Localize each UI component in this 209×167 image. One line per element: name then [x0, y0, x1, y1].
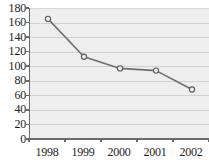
y-tick-mark-160: [25, 22, 29, 24]
y-tick-label-120: 120: [0, 45, 26, 57]
data-point-1999: [81, 54, 86, 59]
y-tick-label-140: 140: [0, 31, 26, 43]
x-tick-mark-0: [28, 138, 30, 142]
x-tick-mark-1: [64, 138, 66, 142]
x-tick-label-2001: 2001: [137, 146, 173, 159]
y-tick-label-160: 160: [0, 16, 26, 28]
data-point-2002: [189, 87, 194, 92]
y-tick-mark-180: [25, 7, 29, 9]
x-tick-label-2000: 2000: [101, 146, 137, 159]
line-chart: 020406080100120140160180 199819992000200…: [0, 0, 209, 167]
y-tick-label-20: 20: [0, 118, 26, 130]
data-point-1998: [45, 16, 50, 21]
data-point-2000: [117, 66, 122, 71]
y-tick-label-0: 0: [0, 133, 26, 145]
x-axis-line: [29, 138, 209, 140]
x-tick-mark-2: [100, 138, 102, 142]
x-tick-mark-4: [172, 138, 174, 142]
y-tick-label-180: 180: [0, 2, 26, 14]
x-tick-mark-3: [136, 138, 138, 142]
x-tick-label-1998: 1998: [29, 146, 65, 159]
y-tick-label-40: 40: [0, 103, 26, 115]
y-tick-mark-60: [25, 95, 29, 97]
y-tick-label-100: 100: [0, 60, 26, 72]
y-tick-mark-80: [25, 80, 29, 82]
y-tick-mark-120: [25, 51, 29, 53]
data-point-2001: [153, 68, 158, 73]
y-tick-mark-100: [25, 65, 29, 67]
y-tick-label-60: 60: [0, 89, 26, 101]
plot-area: [29, 8, 209, 139]
x-tick-mark-5: [208, 138, 209, 142]
y-tick-mark-20: [25, 124, 29, 126]
x-tick-label-2002: 2002: [173, 146, 209, 159]
series-line: [48, 19, 192, 90]
series-layer: [30, 8, 209, 139]
y-tick-mark-40: [25, 109, 29, 111]
y-tick-mark-140: [25, 36, 29, 38]
y-tick-label-80: 80: [0, 74, 26, 86]
x-tick-label-1999: 1999: [65, 146, 101, 159]
